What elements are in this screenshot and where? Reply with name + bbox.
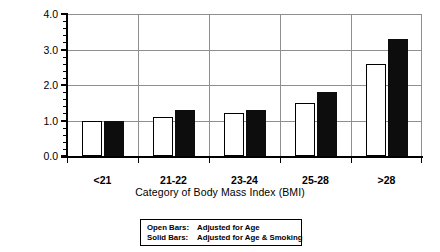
gridline-y-4 xyxy=(67,14,422,15)
legend-entry-solid-bars-key: Solid Bars: xyxy=(147,233,197,243)
bar-open-23-24 xyxy=(224,113,244,156)
legend-entry-open-bars: Open Bars:Adjusted for Age xyxy=(147,223,301,233)
category-label-25-28: 25-28 xyxy=(280,174,351,186)
y-tick-label: 3.0 xyxy=(26,45,58,55)
bar-open-<21 xyxy=(82,121,102,157)
y-tick-label: 0.0 xyxy=(26,151,58,161)
legend-entry-solid-bars: Solid Bars:Adjusted for Age & Smoking xyxy=(147,233,301,243)
bar-open-21-22 xyxy=(153,117,173,156)
bar-solid-<21 xyxy=(104,121,124,157)
legend-entry-solid-bars-text: Adjusted for Age & Smoking xyxy=(197,233,302,242)
category-label-21-22: 21-22 xyxy=(138,174,209,186)
category-divider-3 xyxy=(280,14,281,156)
legend-box: Open Bars:Adjusted for Age Solid Bars:Ad… xyxy=(140,219,302,246)
bar-solid-25-28 xyxy=(317,92,337,156)
category-label-23-24: 23-24 xyxy=(209,174,280,186)
y-tick-label: 1.0 xyxy=(26,116,58,126)
y-axis-line xyxy=(66,13,68,157)
bar-solid-21-22 xyxy=(175,110,195,156)
legend-entry-open-bars-key: Open Bars: xyxy=(147,223,197,233)
bar-solid->28 xyxy=(388,39,408,156)
plot-right-border xyxy=(421,14,422,156)
category-label->28: >28 xyxy=(351,174,422,186)
bar-chart-figure: Relative Risk 0.01.02.03.04.0 <2121-2223… xyxy=(0,0,440,252)
bar-solid-23-24 xyxy=(246,110,266,156)
gridline-y-3 xyxy=(67,50,422,51)
category-divider-2 xyxy=(209,14,210,156)
category-divider-1 xyxy=(138,14,139,156)
bar-open-25-28 xyxy=(295,103,315,156)
bar-open->28 xyxy=(366,64,386,156)
category-label-<21: <21 xyxy=(67,174,138,186)
plot-area: 0.01.02.03.04.0 <2121-2223-2425-28>28 xyxy=(67,14,422,156)
y-tick-label: 2.0 xyxy=(26,80,58,90)
y-tick-label: 4.0 xyxy=(26,9,58,19)
legend-entry-open-bars-text: Adjusted for Age xyxy=(197,223,260,232)
x-axis-title: Category of Body Mass Index (BMI) xyxy=(0,186,440,198)
category-divider-4 xyxy=(351,14,352,156)
x-axis-line xyxy=(61,156,423,158)
